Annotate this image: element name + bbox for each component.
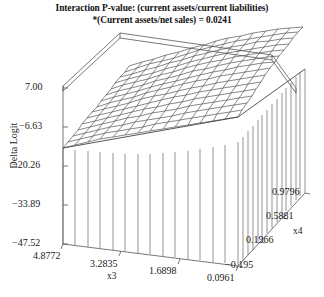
x4-tick-label-0: 0.9796: [272, 186, 300, 197]
z-tick-label-1: −6.63: [19, 120, 42, 131]
z-tick-label-3: −33.89: [12, 198, 40, 209]
x3-tick-label-3: 0.0961: [207, 272, 235, 283]
x4-axis-title: x4: [293, 226, 303, 236]
x4-tick-label-2: 0.1966: [246, 234, 274, 245]
z-tick-label-2: −20.26: [12, 159, 40, 170]
z-axis-title: Delta Logit: [8, 111, 19, 181]
surface-rim: [63, 69, 305, 148]
x3-axis-title: x3: [107, 271, 117, 281]
x3-tick-label-1: 3.2835: [90, 258, 118, 269]
x3-tick-label-2: 1.6898: [149, 265, 177, 276]
z-tick-label-4: −47.52: [12, 237, 40, 248]
z-axis-ticks: [63, 88, 68, 244]
x4-tick-label-1: 0.5881: [266, 210, 294, 221]
surface-plot-figure: Interaction P-value: (current assets/cur…: [0, 0, 324, 297]
x4-tick-label-3: −0.195: [225, 259, 253, 270]
z-tick-label-0: 7.00: [25, 81, 43, 92]
x3-tick-label-0: 4.8772: [33, 250, 61, 261]
